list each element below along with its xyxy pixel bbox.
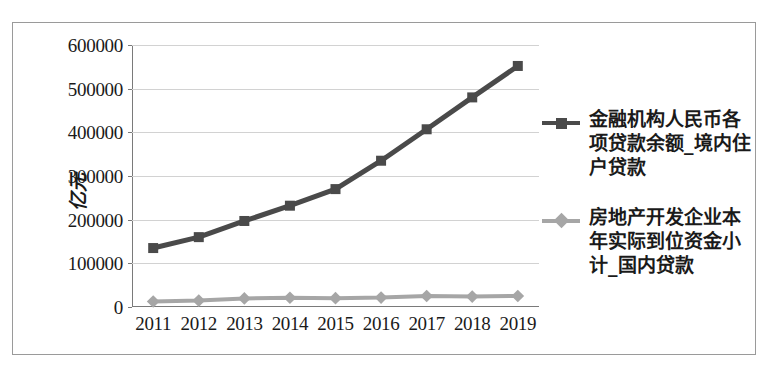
data-point-marker — [148, 243, 158, 253]
legend-entry[interactable]: 房地产开发企业本年实际到位资金小计_国内贷款 — [541, 206, 751, 278]
x-tick-label: 2014 — [272, 314, 308, 333]
data-point-marker — [376, 156, 386, 166]
data-point-marker — [192, 294, 205, 307]
series-2 — [147, 290, 524, 308]
data-point-marker — [375, 291, 388, 304]
series-group — [132, 45, 539, 307]
legend-label: 房地产开发企业本年实际到位资金小计_国内贷款 — [589, 206, 751, 278]
y-tick-label: 200000 — [68, 210, 123, 229]
data-point-marker — [147, 295, 160, 308]
x-tick-label: 2011 — [135, 314, 171, 333]
x-tick-label: 2013 — [226, 314, 262, 333]
data-point-marker — [511, 290, 524, 303]
data-point-marker — [422, 124, 432, 134]
y-tick-label: 0 — [114, 298, 123, 317]
data-point-marker — [513, 61, 523, 71]
x-tick-label: 2016 — [363, 314, 399, 333]
data-point-marker — [239, 216, 249, 226]
y-tick-mark — [128, 307, 132, 308]
data-point-marker — [329, 292, 342, 305]
y-tick-label: 300000 — [68, 167, 123, 186]
chart-figure-frame: 亿元 6000005000004000003000002000001000000… — [12, 22, 756, 355]
data-point-marker — [238, 292, 251, 305]
plot-area: 6000005000004000003000002000001000000 20… — [132, 45, 539, 307]
y-tick-label: 100000 — [68, 254, 123, 273]
series-line — [153, 66, 518, 248]
legend-label: 金融机构人民币各项贷款余额_境内住户贷款 — [589, 108, 751, 180]
x-tick-label: 2018 — [454, 314, 490, 333]
data-point-marker — [331, 184, 341, 194]
legend-marker — [553, 213, 569, 229]
x-tick-label: 2017 — [408, 314, 444, 333]
x-tick-label: 2019 — [500, 314, 536, 333]
data-point-marker — [285, 201, 295, 211]
series-1 — [148, 61, 523, 253]
y-tick-label: 600000 — [68, 36, 123, 55]
y-tick-label: 500000 — [68, 79, 123, 98]
data-point-marker — [467, 92, 477, 102]
y-tick-label: 400000 — [68, 123, 123, 142]
x-tick-label: 2015 — [317, 314, 353, 333]
legend-entry[interactable]: 金融机构人民币各项贷款余额_境内住户贷款 — [541, 108, 751, 180]
legend-marker — [556, 118, 567, 129]
data-point-marker — [284, 291, 297, 304]
legend-diamond-icon — [541, 210, 581, 232]
legend-square-icon — [541, 112, 581, 134]
data-point-marker — [194, 232, 204, 242]
chart-legend: 金融机构人民币各项贷款余额_境内住户贷款房地产开发企业本年实际到位资金小计_国内… — [541, 108, 751, 304]
data-point-marker — [466, 290, 479, 303]
data-point-marker — [420, 290, 433, 303]
x-tick-label: 2012 — [181, 314, 217, 333]
